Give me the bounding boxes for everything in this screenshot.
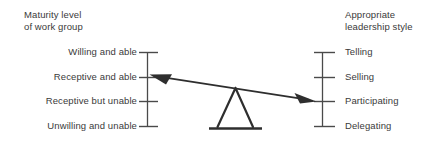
seesaw-diagram xyxy=(0,0,435,143)
right-axis-group xyxy=(314,52,335,127)
seesaw-beam-group xyxy=(150,74,317,103)
fulcrum-group xyxy=(209,88,262,129)
seesaw-arrowhead-left xyxy=(150,74,173,84)
left-axis-group xyxy=(139,52,158,127)
seesaw-arrowhead-right xyxy=(295,93,317,104)
seesaw-beam-line xyxy=(157,76,309,100)
figure-canvas: Maturity level of work group Appropriate… xyxy=(0,0,435,143)
fulcrum-triangle xyxy=(218,88,254,127)
